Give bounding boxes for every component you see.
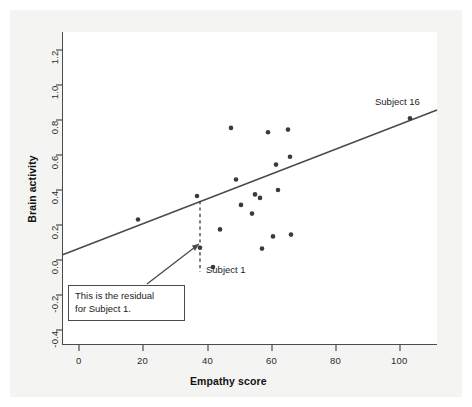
x-axis-title: Empathy score — [190, 375, 267, 387]
x-tick-label-20: 20 — [137, 355, 148, 366]
figure-container: 1.2 1.0 0.8 0.6 0.4 0.2 0.0 -0.2 -0.4 0 … — [0, 0, 472, 407]
y-tick-label-0.2: 0.2 — [49, 226, 60, 246]
y-axis-title: Brain activity — [26, 134, 38, 244]
data-point — [260, 246, 265, 251]
data-point — [274, 162, 279, 167]
data-point — [195, 194, 200, 199]
chart-graphics-layer — [0, 0, 472, 407]
y-tick-label-0.6: 0.6 — [49, 156, 60, 176]
y-tick-label-neg0.4: -0.4 — [49, 331, 60, 354]
residual-callout-box: This is the residual for Subject 1. — [68, 285, 185, 321]
regression-line — [62, 110, 437, 255]
data-point — [286, 127, 291, 132]
scatter-points — [136, 116, 413, 269]
y-tick-label-1.2: 1.2 — [49, 51, 60, 71]
y-tick-label-1.0: 1.0 — [49, 86, 60, 106]
data-point — [288, 155, 293, 160]
callout-line-1: This is the residual — [75, 290, 178, 303]
x-tick-label-60: 60 — [266, 355, 277, 366]
callout-line-2: for Subject 1. — [75, 303, 178, 316]
y-tick-label-neg0.2: -0.2 — [49, 296, 60, 319]
y-tick-label-0.4: 0.4 — [49, 191, 60, 211]
x-tick-label-0: 0 — [76, 355, 81, 366]
x-tick-label-80: 80 — [330, 355, 341, 366]
data-point — [198, 246, 203, 251]
data-point — [289, 232, 294, 237]
data-point — [218, 227, 223, 232]
data-point — [258, 196, 263, 201]
data-point — [408, 116, 413, 121]
subject-1-label: Subject 1 — [206, 264, 246, 275]
data-point — [239, 203, 244, 208]
y-tick-label-0.0: 0.0 — [49, 261, 60, 281]
data-point — [253, 192, 258, 197]
data-point — [229, 126, 234, 131]
x-tick-label-100: 100 — [391, 355, 407, 366]
data-point — [271, 234, 276, 239]
x-tick-label-40: 40 — [202, 355, 213, 366]
y-tick-label-0.8: 0.8 — [49, 121, 60, 141]
data-point — [266, 130, 271, 135]
x-axis-ticks — [79, 345, 400, 351]
callout-leader-line — [147, 244, 199, 284]
data-point — [234, 177, 239, 182]
data-point — [276, 188, 281, 193]
data-point — [250, 211, 255, 216]
subject-16-label: Subject 16 — [375, 96, 420, 107]
data-point — [136, 217, 141, 222]
